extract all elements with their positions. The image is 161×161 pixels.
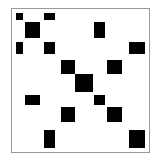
- matrix-block-r0-c0: [16, 13, 23, 20]
- matrix-block-r7-c7: [129, 130, 145, 148]
- matrix-block-r2-c0: [16, 42, 23, 54]
- matrix-block-r1-c1: [25, 22, 40, 38]
- matrix-block-r2-c7: [129, 42, 145, 54]
- matrix-block-r4-c4: [75, 74, 93, 92]
- matrix-block-r3-c6: [107, 60, 122, 74]
- matrix-block-r6-c3: [61, 107, 75, 122]
- matrix-block-r5-c1: [25, 95, 40, 105]
- matrix-block-r3-c3: [61, 60, 75, 74]
- matrix-block-r7-c2: [44, 130, 55, 148]
- matrix-block-r5-c5: [94, 95, 105, 105]
- matrix-block-r2-c2: [44, 42, 55, 54]
- matrix-block-r0-c2: [44, 13, 55, 20]
- matrix-block-r1-c5: [94, 22, 105, 38]
- matrix-block-r6-c6: [107, 107, 122, 122]
